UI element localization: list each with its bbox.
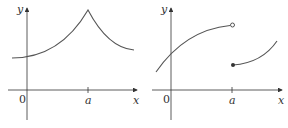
open-circle-endpoint <box>231 23 235 27</box>
left-graph: y 0 a x <box>8 3 140 120</box>
right-curve-right-piece <box>233 41 277 65</box>
right-x-label: x <box>278 94 285 107</box>
left-x-label: x <box>133 94 140 107</box>
right-y-label: y <box>160 3 168 16</box>
left-curve <box>12 10 134 58</box>
left-a-label: a <box>85 94 92 107</box>
right-curve-left-piece <box>156 26 230 73</box>
figure-canvas: y 0 a x y 0 a x <box>0 0 288 128</box>
right-a-label: a <box>229 94 236 107</box>
right-graph: y 0 a x <box>152 3 285 120</box>
filled-dot-endpoint <box>231 63 235 67</box>
right-origin-label: 0 <box>163 93 170 106</box>
left-y-label: y <box>16 3 24 16</box>
left-origin-label: 0 <box>19 93 26 106</box>
